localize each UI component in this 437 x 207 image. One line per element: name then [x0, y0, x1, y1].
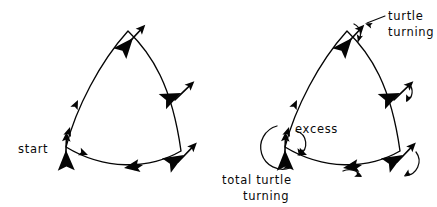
- start-label: start: [18, 142, 48, 156]
- direction-arrow-left-upper: [70, 98, 82, 110]
- turtle-turning-label-line1: turtle: [388, 9, 424, 23]
- turtle-turning-leader: [364, 16, 385, 29]
- turtle-right-right-panel: [377, 77, 421, 110]
- turn-arc-bottom-center: [343, 170, 363, 181]
- total-turtle-turning-label-line1: total turtle: [222, 173, 292, 187]
- turtle-turning-label-line2: turning: [388, 25, 434, 39]
- left-panel: start: [18, 20, 205, 174]
- turtle-top-right-panel: [332, 20, 371, 60]
- turtle-top-left-panel: [113, 20, 152, 60]
- turn-arc-bottom-right: [402, 152, 419, 178]
- total-turtle-turning-label-line2: turning: [243, 189, 289, 203]
- turtle-turning-diagram: start: [0, 0, 437, 207]
- turtle-bottom-right-left-panel: [161, 138, 205, 173]
- right-panel: turtle turning excess total turtle turni…: [222, 9, 434, 203]
- turtle-right-left-panel: [158, 77, 202, 110]
- figure-root: start: [0, 0, 437, 207]
- direction-arrow-left-upper: [289, 98, 301, 110]
- excess-label: excess: [295, 122, 338, 136]
